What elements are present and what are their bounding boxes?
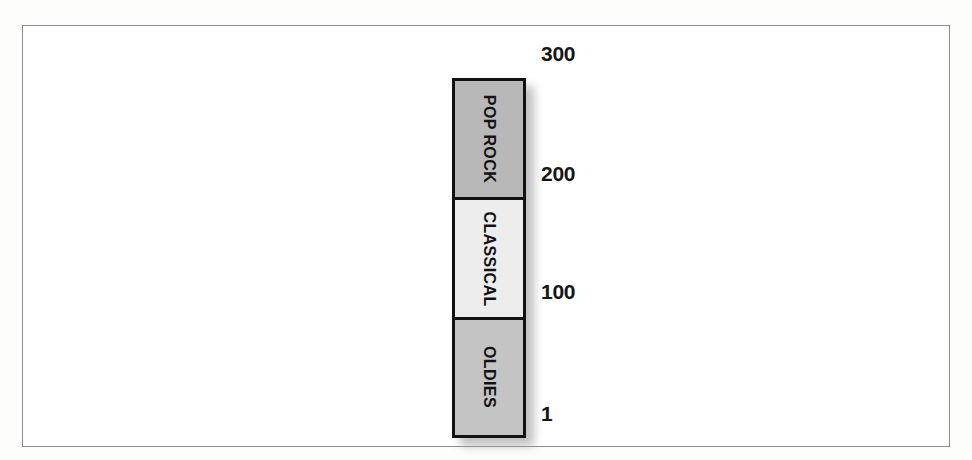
axis-tick-200: 200 [541, 163, 575, 184]
axis-tick-300: 300 [541, 43, 575, 64]
plot-area: POP ROCK CLASSICAL OLDIES [452, 78, 526, 438]
axis-tick-1: 1 [541, 403, 552, 424]
figure-frame: POP ROCK CLASSICAL OLDIES 300 200 100 1 [22, 25, 950, 447]
bar-segment-classical[interactable]: CLASSICAL [455, 197, 523, 316]
bar-segment-label-pop-rock: POP ROCK [480, 95, 498, 183]
figure-root: POP ROCK CLASSICAL OLDIES 300 200 100 1 [0, 0, 972, 460]
stacked-bar-chart: POP ROCK CLASSICAL OLDIES [452, 78, 526, 438]
bar-segment-label-oldies: OLDIES [480, 346, 498, 408]
axis-tick-100: 100 [541, 281, 575, 302]
bar-segment-oldies[interactable]: OLDIES [455, 317, 523, 435]
bar-segment-pop-rock[interactable]: POP ROCK [455, 81, 523, 197]
y-axis-tick-labels: 300 200 100 1 [541, 26, 631, 460]
bar-segment-label-classical: CLASSICAL [480, 211, 498, 306]
